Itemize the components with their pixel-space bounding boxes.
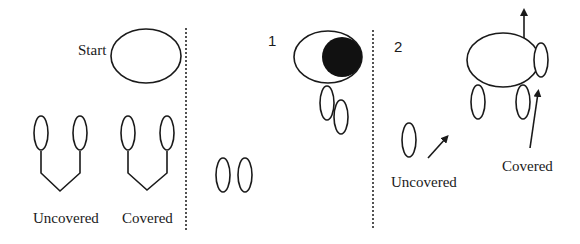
covered-region-circle: [322, 37, 362, 77]
foot-ellipse: [216, 158, 230, 192]
start-label: Start: [78, 42, 107, 58]
uncovered-example: Uncovered: [33, 116, 99, 226]
legend-panel: Start Uncovered Covered: [33, 29, 181, 226]
connector-line: [41, 151, 80, 191]
step1-panel: 1: [216, 31, 362, 192]
foot-ellipse: [238, 158, 252, 192]
step2-panel: 2 Uncovered Covered: [391, 12, 553, 190]
covered-label: Covered: [122, 210, 173, 226]
foot-ellipse: [471, 85, 485, 119]
covered-label: Covered: [502, 158, 553, 174]
start-body-ellipse: [111, 29, 181, 83]
foot-ellipse: [320, 86, 334, 120]
foot-ellipse: [334, 100, 348, 134]
foot-ellipse: [516, 85, 530, 119]
body-ellipse: [467, 33, 539, 87]
arrow-diagonal-icon: [428, 138, 446, 158]
foot-ellipse: [534, 43, 548, 77]
step-number: 1: [268, 32, 276, 49]
arrow-diagonal-icon: [530, 93, 538, 148]
step-number: 2: [394, 38, 402, 55]
foot-ellipse: [121, 116, 135, 150]
covered-example: Covered: [121, 116, 174, 226]
foot-ellipse: [160, 116, 174, 150]
uncovered-label: Uncovered: [391, 174, 457, 190]
foot-ellipse: [34, 116, 48, 150]
uncovered-label: Uncovered: [33, 210, 99, 226]
diagram-canvas: Start Uncovered Covered 1 2: [0, 0, 580, 244]
foot-ellipse: [73, 116, 87, 150]
connector-line: [128, 151, 167, 190]
foot-ellipse: [402, 123, 416, 157]
